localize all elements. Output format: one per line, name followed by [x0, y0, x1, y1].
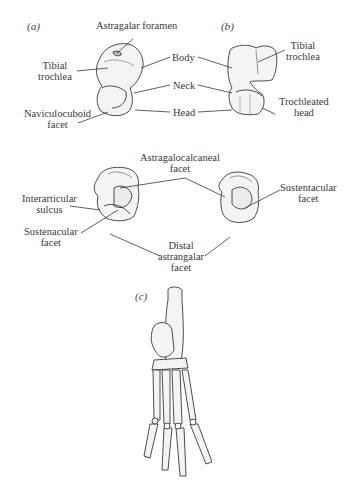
label-sustenacular-facet: Sustenacular facet	[24, 226, 78, 248]
panel-label-c: (c)	[135, 290, 147, 302]
label-trochleated-head: Trochleated head	[279, 96, 329, 118]
astragalus-a-drawing	[96, 44, 143, 116]
astragalus-b-drawing	[228, 45, 277, 115]
label-tibial-trochlea-a: Tibial trochlea	[38, 60, 72, 82]
label-astragalocalcaneal-facet: Astragalocalcaneal facet	[140, 152, 220, 174]
label-sustentacular-facet: Sustentacular facet	[280, 182, 337, 204]
astragalus-d-drawing	[219, 172, 259, 223]
label-body: Body	[172, 52, 195, 63]
foot-skeleton-drawing	[144, 287, 212, 476]
label-astragalar-foramen: Astragalar foramen	[96, 20, 177, 31]
label-interarticular-sulcus: Interarticular sulcus	[22, 193, 77, 215]
label-neck: Neck	[173, 80, 195, 91]
label-head: Head	[173, 107, 195, 118]
label-distal-astrangalar-facet: Distal astrangalar facet	[158, 240, 204, 273]
anatomical-figure: (a) (b) (c) Astragalar foramen Tibial tr…	[0, 0, 357, 502]
label-naviculocuboid-facet: Naviculocuboid facet	[24, 108, 91, 130]
panel-label-a: (a)	[27, 20, 40, 32]
label-tibial-trochlea-b: Tibial trochlea	[286, 40, 320, 62]
panel-label-b: (b)	[221, 20, 234, 32]
astragalus-c-drawing	[94, 167, 139, 220]
